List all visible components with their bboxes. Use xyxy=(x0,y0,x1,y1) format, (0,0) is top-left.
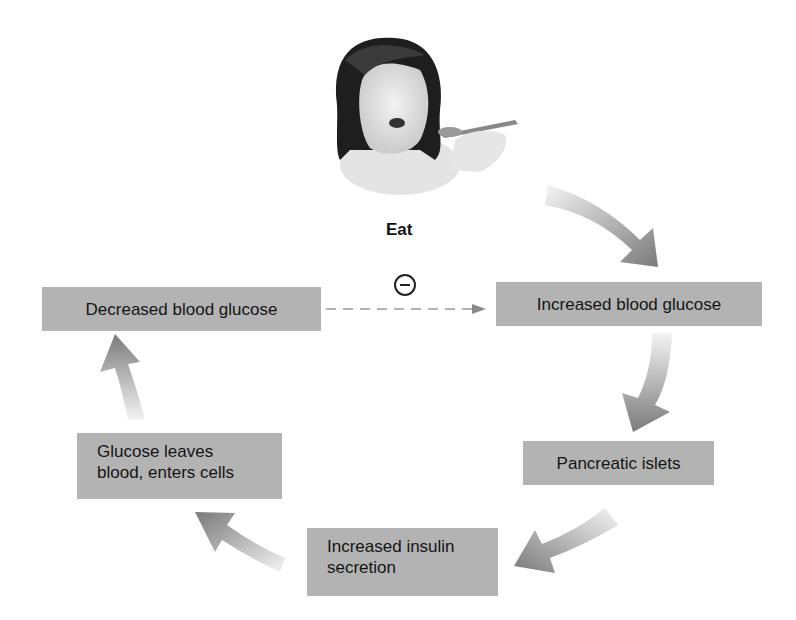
box-label-line2: secretion xyxy=(327,557,498,578)
feedback-arrowhead-icon xyxy=(472,304,486,314)
arrow-eat-to-increased xyxy=(545,185,658,267)
box-label: Increased blood glucose xyxy=(537,294,721,315)
box-glucose-leaves-blood: Glucose leaves blood, enters cells xyxy=(77,433,282,499)
box-increased-insulin-secretion: Increased insulin secretion xyxy=(307,528,498,596)
arrow-pancreatic-to-insulin xyxy=(514,508,618,573)
eat-label: Eat xyxy=(386,220,412,240)
box-label-line2: blood, enters cells xyxy=(97,462,282,483)
box-pancreatic-islets: Pancreatic islets xyxy=(523,441,714,485)
box-label-line1: Increased insulin xyxy=(327,536,498,557)
arrow-increased-to-pancreatic xyxy=(622,333,672,432)
box-increased-blood-glucose: Increased blood glucose xyxy=(496,282,762,326)
arrow-insulin-to-glucose-leaves xyxy=(195,512,285,572)
arrow-glucose-leaves-to-decreased xyxy=(100,334,145,420)
girl-eating-icon xyxy=(336,38,518,195)
minus-circle-icon xyxy=(394,274,416,296)
box-label: Decreased blood glucose xyxy=(86,299,278,320)
box-label-line1: Glucose leaves xyxy=(97,441,282,462)
box-decreased-blood-glucose: Decreased blood glucose xyxy=(42,287,321,331)
box-label: Pancreatic islets xyxy=(557,453,681,474)
